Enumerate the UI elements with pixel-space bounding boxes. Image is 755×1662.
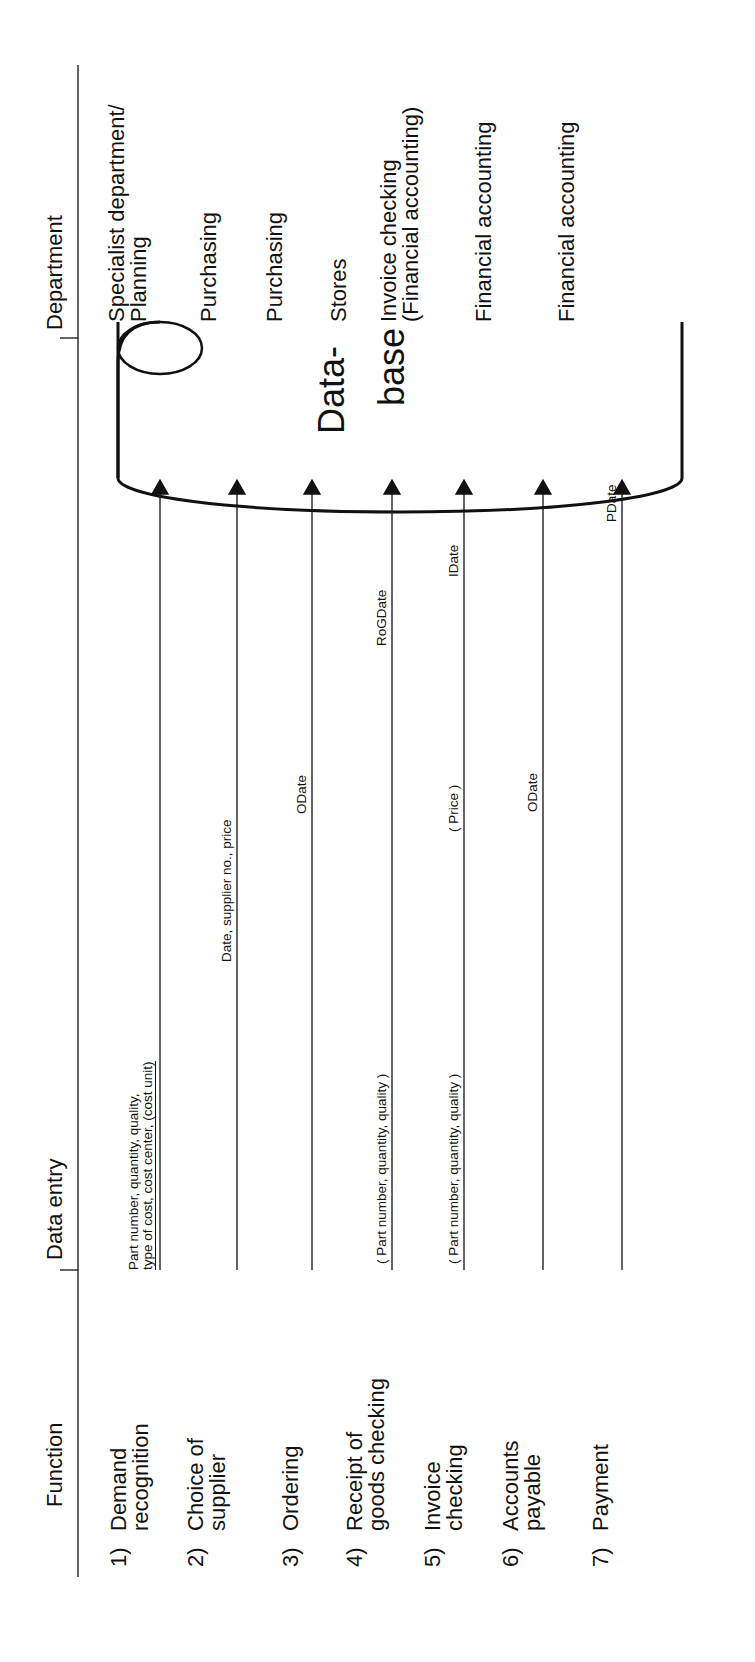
entry-row-1: Part number, quantity, quality, type of …: [127, 1061, 156, 1270]
header-function: Function: [44, 1423, 66, 1507]
entry-row-3: ODate: [295, 775, 309, 814]
entry-row-5-c: IDate: [447, 545, 461, 577]
department-row-2: Purchasing: [198, 212, 220, 322]
department-row-3: Purchasing: [264, 212, 286, 322]
database-label-line1: Data-: [312, 346, 352, 434]
entry-row-5-a: ( Part number, quantity, quality ): [447, 1074, 461, 1264]
database-label-line2: base: [372, 328, 412, 406]
entry-line-2: type of cost, cost center, (cost unit): [141, 1061, 156, 1270]
entry-row-7: PDate: [605, 484, 619, 522]
header-department: Department: [44, 215, 66, 330]
entry-line-1: Part number, quantity, quality,: [127, 1061, 141, 1270]
entry-row-4-b: RoGDate: [375, 590, 389, 646]
entry-row-6: ODate: [526, 773, 540, 812]
department-row-6: Financial accounting: [473, 121, 495, 322]
entry-row-5-b: ( Price ): [447, 785, 461, 832]
header-data-entry: Data entry: [44, 1159, 66, 1261]
rotated-diagram: Function Data entry Department Data- bas…: [0, 0, 755, 1662]
department-row-5: Invoice checking (Financial accounting): [378, 107, 422, 322]
row-number: 1): [108, 1547, 130, 1567]
department-row-1: Specialist department/ Planning: [106, 104, 150, 322]
department-row-7: Financial accounting: [556, 121, 578, 322]
function-label: Demandrecognition: [108, 1423, 152, 1531]
department-row-4: Stores: [328, 258, 350, 322]
entry-row-2: Date, supplier no., price: [220, 819, 234, 962]
entry-row-4-a: ( Part number, quantity, quality ): [375, 1074, 389, 1264]
